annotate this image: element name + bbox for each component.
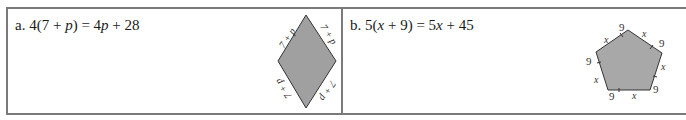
pentagon-label: x [593,74,599,85]
pentagon-label: x [641,28,647,39]
pentagon-label: 9 [586,55,592,67]
pentagon-label: x [603,34,609,45]
pentagon-label: 9 [609,90,615,102]
pentagon-label: 9 [619,21,625,33]
pentagon-label: 9 [659,37,665,49]
pentagon-label: x [631,90,637,101]
pentagon-label: 9 [653,83,659,95]
pentagon-label: x [660,61,666,72]
